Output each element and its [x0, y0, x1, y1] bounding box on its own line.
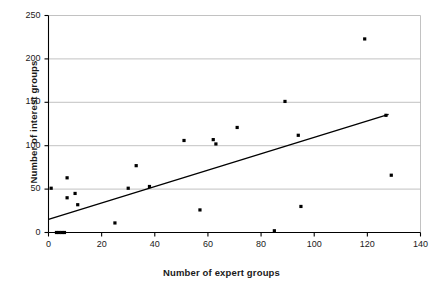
- y-tick-label-0: 0: [15, 227, 41, 237]
- y-axis-title: Number of interest groups: [28, 60, 39, 183]
- data-point-0-10: [127, 187, 130, 190]
- x-tick-label-120: 120: [354, 239, 380, 249]
- x-axis-title-container: Number of expert groups: [0, 262, 443, 280]
- data-point-0-12: [148, 185, 151, 188]
- data-point-0-8: [76, 203, 79, 206]
- y-tick-label-50: 50: [15, 183, 41, 193]
- data-point-0-18: [273, 229, 276, 232]
- y-tick-label-100: 100: [15, 140, 41, 150]
- y-tick-label-150: 150: [15, 96, 41, 106]
- data-point-0-11: [135, 164, 138, 167]
- data-point-0-14: [198, 208, 201, 211]
- data-point-0-20: [297, 134, 300, 137]
- data-point-0-0: [50, 187, 53, 190]
- x-tick-label-40: 40: [142, 239, 168, 249]
- data-point-0-4: [63, 231, 66, 234]
- data-point-0-23: [384, 114, 387, 117]
- data-point-0-6: [66, 196, 69, 199]
- x-tick-label-20: 20: [89, 239, 115, 249]
- data-point-0-5: [66, 176, 69, 179]
- data-point-0-13: [182, 139, 185, 142]
- data-point-0-24: [390, 174, 393, 177]
- x-tick-label-100: 100: [301, 239, 327, 249]
- y-axis-title-container: Number of interest groups: [23, 12, 41, 232]
- data-point-0-21: [299, 205, 302, 208]
- trendline: [49, 114, 389, 219]
- data-point-0-16: [214, 142, 217, 145]
- data-point-0-22: [363, 37, 366, 40]
- y-tick-label-250: 250: [15, 10, 41, 20]
- data-point-0-7: [73, 192, 76, 195]
- x-axis-title: Number of expert groups: [163, 267, 280, 278]
- scatter-chart: Number of interest groups Number of expe…: [0, 0, 443, 286]
- data-point-0-15: [212, 138, 215, 141]
- x-tick-label-140: 140: [408, 239, 434, 249]
- data-point-0-17: [236, 126, 239, 129]
- data-point-0-9: [113, 221, 116, 224]
- data-point-0-19: [283, 100, 286, 103]
- y-tick-label-200: 200: [15, 53, 41, 63]
- x-tick-label-60: 60: [195, 239, 221, 249]
- x-tick-label-80: 80: [248, 239, 274, 249]
- x-tick-label-0: 0: [36, 239, 62, 249]
